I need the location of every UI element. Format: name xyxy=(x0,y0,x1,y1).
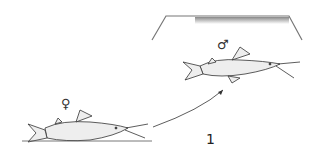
illustration xyxy=(0,0,322,156)
male-fish xyxy=(183,47,300,83)
female-symbol: ♀ xyxy=(61,97,71,110)
figure: ♂ ♀ 1 xyxy=(0,0,322,156)
curved-arrow xyxy=(153,90,223,127)
female-fish xyxy=(22,110,152,142)
male-symbol: ♂ xyxy=(217,38,229,51)
figure-label: 1 xyxy=(206,131,215,147)
